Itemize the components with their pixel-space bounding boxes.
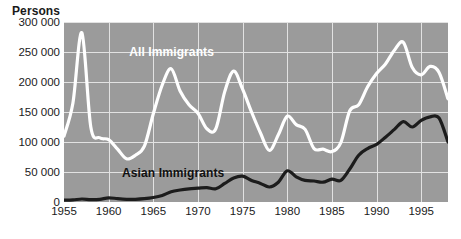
x-tick-label: 1965 bbox=[141, 205, 167, 217]
x-tick-label: 1980 bbox=[274, 205, 300, 217]
y-tick-label: 200 000 bbox=[2, 76, 60, 88]
x-tick-label: 1985 bbox=[319, 205, 345, 217]
x-tick-label: 1955 bbox=[51, 205, 77, 217]
y-tick-label: 50 000 bbox=[2, 166, 60, 178]
plot-area: All Immigrants Asian Immigrants bbox=[64, 22, 448, 202]
x-axis-tick-labels: 195519601965197019751980198519901995 bbox=[0, 205, 461, 225]
series-label-all-immigrants: All Immigrants bbox=[129, 45, 214, 59]
y-tick-label: 300 000 bbox=[2, 16, 60, 28]
y-tick-label: 250 000 bbox=[2, 46, 60, 58]
x-tick-label: 1990 bbox=[364, 205, 390, 217]
series-label-asian-immigrants: Asian Immigrants bbox=[122, 166, 224, 180]
x-tick-label: 1995 bbox=[408, 205, 434, 217]
x-tick-label: 1975 bbox=[230, 205, 256, 217]
immigration-line-chart: Persons 300 000250 000200 000150 000100 … bbox=[0, 0, 461, 239]
y-tick-label: 100 000 bbox=[2, 136, 60, 148]
series-line bbox=[64, 116, 448, 201]
series-line bbox=[64, 33, 448, 159]
x-tick-label: 1970 bbox=[185, 205, 211, 217]
y-tick-label: 150 000 bbox=[2, 106, 60, 118]
x-tick-label: 1960 bbox=[96, 205, 122, 217]
y-axis-tick-labels: 300 000250 000200 000150 000100 00050 00… bbox=[0, 0, 60, 239]
